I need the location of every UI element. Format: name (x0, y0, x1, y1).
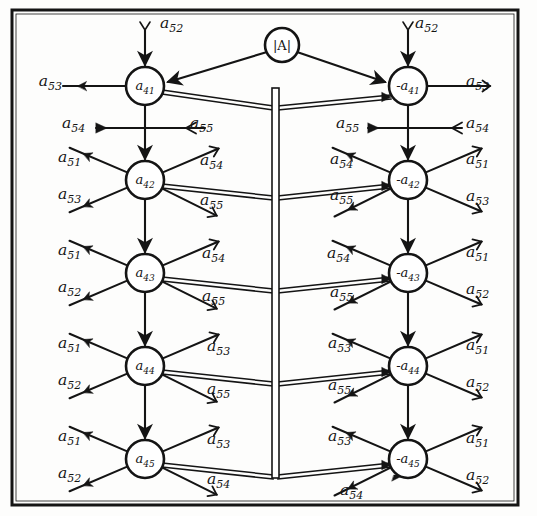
node-a43[interactable]: a43 (126, 254, 164, 292)
branch-label-left-a53-r4: a53 (207, 337, 230, 358)
branch-label-left-a54-r1-2: a54 (62, 114, 85, 135)
svg-text:a53: a53 (207, 430, 230, 451)
source-node-determinant[interactable]: |A| (265, 28, 299, 62)
branch-label-left-a53-r2: a53 (58, 185, 81, 206)
source-node-label: |A| (273, 38, 291, 53)
svg-text:a53: a53 (39, 72, 62, 93)
branch-label-left-a54-r2: a54 (200, 151, 223, 172)
svg-text:a52: a52 (160, 14, 183, 35)
svg-text:a54: a54 (200, 151, 223, 172)
branch-label-right-a51-r3: a51 (466, 243, 489, 264)
branch-label-left-a53-r5: a53 (207, 430, 230, 451)
branch-label-left-a52-r5: a52 (58, 464, 81, 485)
svg-text:a51: a51 (466, 429, 489, 450)
branch-label-left-a52-r4: a52 (58, 371, 81, 392)
svg-text:a52: a52 (466, 280, 489, 301)
svg-text:a55: a55 (336, 114, 359, 135)
branch-label-right-a52-r4: a52 (466, 373, 489, 394)
svg-text:a51: a51 (466, 243, 489, 264)
branch-label-right-a51-r4: a51 (466, 336, 489, 357)
svg-text:a52: a52 (58, 371, 81, 392)
signal-flow-graph: a41a42a43a44a45-a41-a42-a43-a44-a45|A| a… (0, 0, 537, 516)
branch-label-right-a52-r1: a52 (415, 14, 438, 35)
branch-label-right-a51-r2: a51 (466, 150, 489, 171)
branch-label-right-a51-r5: a51 (466, 429, 489, 450)
branch-label-right-a54-r1-2: a54 (466, 114, 489, 135)
svg-text:a53: a53 (207, 337, 230, 358)
svg-text:a52: a52 (58, 278, 81, 299)
svg-text:a52: a52 (58, 464, 81, 485)
branch-label-right-a52-r5: a52 (466, 466, 489, 487)
branch-label-right-a53-r2: a53 (466, 187, 489, 208)
svg-text:a54: a54 (202, 244, 225, 265)
branch-label-left-a55-r1-2: a55 (190, 114, 213, 135)
svg-text:a53: a53 (466, 187, 489, 208)
svg-text:a51: a51 (466, 336, 489, 357)
node-neg-a43[interactable]: -a43 (389, 254, 427, 292)
svg-text:a55: a55 (207, 380, 230, 401)
node-a44[interactable]: a44 (126, 347, 164, 385)
svg-text:a52: a52 (415, 14, 438, 35)
node-a42[interactable]: a42 (126, 161, 164, 199)
node-neg-a44[interactable]: -a44 (389, 347, 427, 385)
svg-text:a52: a52 (466, 373, 489, 394)
svg-text:a55: a55 (202, 287, 225, 308)
node-a41[interactable]: a41 (126, 67, 164, 105)
bus-bar (272, 88, 279, 478)
branch-label-right-a55-r1-2: a55 (336, 114, 359, 135)
figure-canvas: a41a42a43a44a45-a41-a42-a43-a44-a45|A| a… (0, 0, 537, 516)
branch-label-left-a53-r1: a53 (39, 72, 62, 93)
branch-label-left-a55-r3: a55 (202, 287, 225, 308)
branch-label-right-a53-r1: a53 (466, 72, 489, 93)
branch-label-left-a55-r4: a55 (207, 380, 230, 401)
node-neg-a42[interactable]: -a42 (389, 161, 427, 199)
branch-label-left-a52-r1: a52 (160, 14, 183, 35)
svg-text:a52: a52 (466, 466, 489, 487)
branch-label-right-a52-r3: a52 (466, 280, 489, 301)
svg-text:a53: a53 (58, 185, 81, 206)
node-neg-a41[interactable]: -a41 (389, 67, 427, 105)
branch-label-left-a54-r3: a54 (202, 244, 225, 265)
branch-label-left-a52-r3: a52 (58, 278, 81, 299)
svg-text:a54: a54 (62, 114, 85, 135)
svg-text:a55: a55 (190, 114, 213, 135)
svg-text:a51: a51 (466, 150, 489, 171)
svg-text:a53: a53 (466, 72, 489, 93)
svg-text:a54: a54 (466, 114, 489, 135)
node-neg-a45[interactable]: -a45 (389, 440, 427, 478)
node-a45[interactable]: a45 (126, 440, 164, 478)
